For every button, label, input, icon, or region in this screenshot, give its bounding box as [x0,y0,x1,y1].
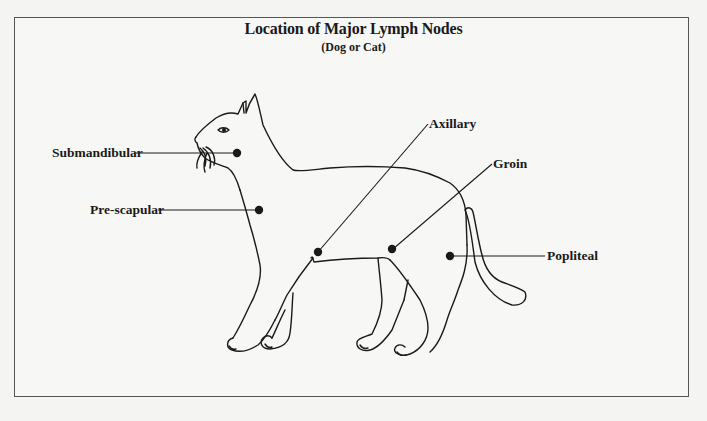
label-axillary: Axillary [429,117,476,131]
groin-node-dot [388,245,396,253]
popliteal-node-dot [446,252,454,260]
axillary-node-dot [314,248,322,256]
label-pre-scapular: Pre-scapular [90,203,164,217]
label-groin: Groin [493,157,527,171]
prescapular-node-dot [255,206,263,214]
cat-tail [430,245,467,352]
label-submandibular: Submandibular [52,146,143,160]
submandibular-node-dot [233,149,241,157]
label-popliteal: Popliteal [547,249,598,263]
cat-head-outline [196,94,467,245]
